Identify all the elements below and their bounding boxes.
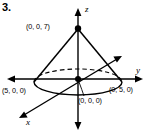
cone-slant-right [78,29,122,82]
label-y-intercept-point: (0, 5, 0) [109,86,133,94]
x-axis [19,56,122,118]
z-axis-label: z [85,5,89,14]
y-axis-label: y [136,66,140,75]
cone-diagram [0,0,146,131]
figure-container: 3. [0,0,146,131]
origin-point-marker [75,76,81,82]
cone-slant-left [34,29,78,82]
label-x-intercept-point: (5, 0, 0) [2,87,26,95]
label-origin-point: (0, 0, 0) [78,97,102,105]
apex-point-marker [75,25,81,31]
origin-leader-line [79,82,84,96]
label-apex-point: (0, 0, 7) [26,23,50,31]
x-axis-label: x [26,118,30,127]
